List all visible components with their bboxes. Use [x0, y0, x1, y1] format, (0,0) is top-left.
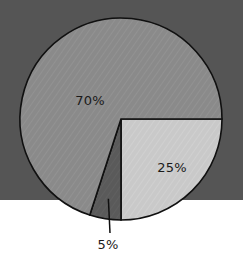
slice-label-5: 5%: [97, 237, 118, 252]
slice-label-25: 25%: [157, 160, 187, 175]
pie-slices: [20, 18, 222, 220]
pie-chart-figure: 70% 25% 5%: [0, 0, 243, 264]
slice-label-70: 70%: [75, 93, 105, 108]
pie-chart-svg: 70% 25% 5%: [0, 0, 243, 264]
